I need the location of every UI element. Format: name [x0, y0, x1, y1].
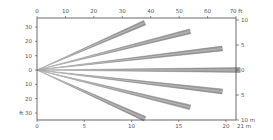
- left-tick-label: 30: [25, 24, 32, 30]
- top-tick-label: 70 ft: [230, 8, 244, 14]
- top-tick-label: 0: [35, 8, 39, 14]
- right-tick-label: 10 m: [241, 117, 255, 123]
- right-tick-label: 5: [241, 42, 245, 48]
- bottom-end-label: 21 m: [237, 123, 251, 129]
- top-tick-label: 20: [90, 8, 97, 14]
- left-tick-label: 10: [25, 53, 32, 59]
- top-tick-label: 30: [119, 8, 126, 14]
- bottom-tick-label: 15: [175, 123, 182, 129]
- left-axis-ticks: 30201001020ft 30: [19, 24, 37, 116]
- left-tick-label: 0: [29, 67, 33, 73]
- beam-3-highlight: [37, 49, 222, 71]
- bottom-tick-label: 10: [128, 123, 135, 129]
- beam-5-highlight: [37, 70, 222, 92]
- beam-6-highlight: [37, 70, 190, 107]
- right-axis-ticks: 1050510 m: [236, 17, 255, 123]
- right-tick-label: 0: [241, 67, 245, 73]
- bottom-tick-label: 5: [83, 123, 87, 129]
- right-tick-label: 10: [241, 17, 248, 23]
- left-tick-label: 20: [25, 38, 32, 44]
- left-tick-label: ft 30: [19, 110, 32, 116]
- top-tick-label: 40: [147, 8, 154, 14]
- left-tick-label: 10: [25, 81, 32, 87]
- top-tick-label: 10: [62, 8, 69, 14]
- beam-7-highlight: [37, 70, 145, 119]
- bottom-axis-ticks: 0510152021 m: [35, 120, 251, 129]
- top-tick-label: 50: [176, 8, 183, 14]
- left-tick-label: 20: [25, 96, 32, 102]
- top-tick-label: 60: [204, 8, 211, 14]
- beam-group: [37, 21, 240, 121]
- coverage-chart: 010203040506070 ft 0510152021 m 30201001…: [0, 0, 273, 140]
- top-axis-ticks: 010203040506070 ft: [35, 8, 243, 18]
- bottom-tick-label: 0: [35, 123, 39, 129]
- right-tick-label: 5: [241, 92, 245, 98]
- bottom-tick-label: 20: [223, 123, 230, 129]
